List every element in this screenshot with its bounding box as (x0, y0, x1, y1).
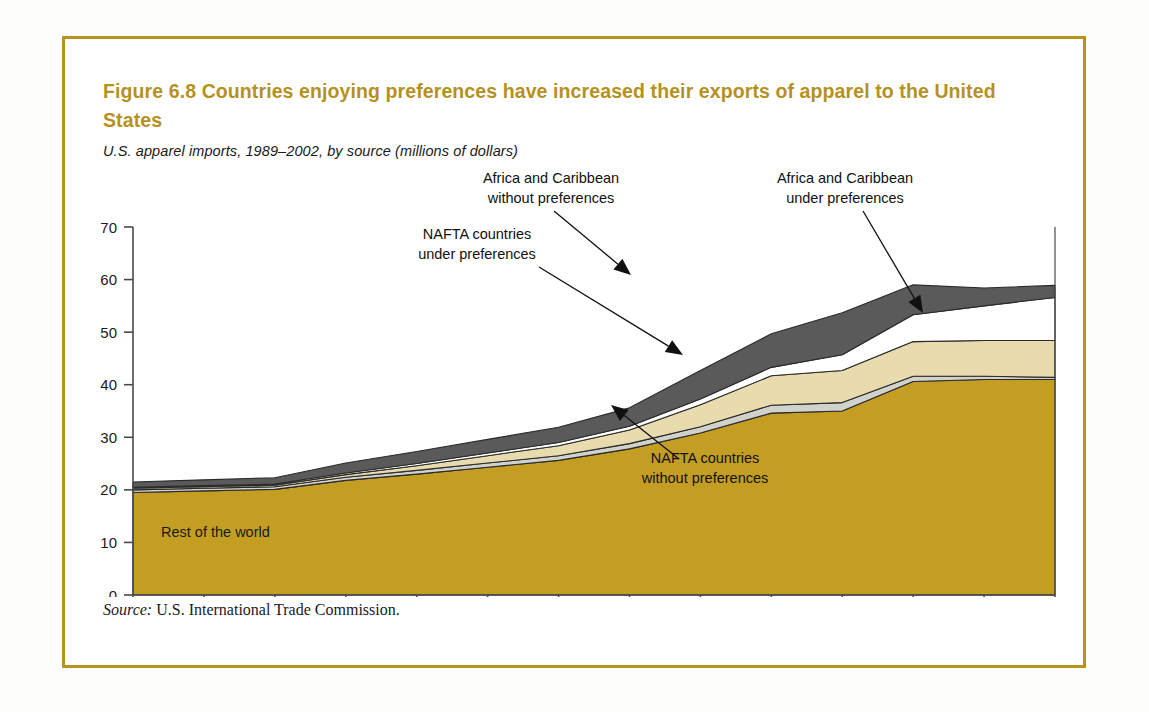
chart-svg: 010203040506070 198919901991199219931994… (65, 167, 1083, 597)
y-axis-tick-label: 10 (100, 534, 117, 551)
annotation-label-africa-caribbean-without-preferences: Africa and Caribbean (483, 170, 619, 186)
annotation-leader-nafta-countries-under-preferences (539, 267, 668, 346)
source-text: U.S. International Trade Commission. (152, 601, 400, 618)
annotation-label2-nafta-countries-without-preferences: without preferences (641, 470, 769, 486)
y-axis-tick-label: 0 (109, 587, 117, 598)
annotation-arrowhead-nafta-countries-under-preferences (665, 340, 683, 355)
y-axis-tick-label: 40 (100, 376, 117, 393)
figure-subtitle: U.S. apparel imports, 1989–2002, by sour… (103, 143, 1033, 159)
series-label-rest-of-the-world: Rest of the world (161, 524, 270, 540)
annotation-label2-africa-caribbean-without-preferences: without preferences (487, 190, 615, 206)
figure-frame: Figure 6.8 Countries enjoying preference… (62, 36, 1086, 668)
page-title: Figure 6.8 Countries enjoying preference… (103, 77, 1033, 135)
stacked-area-chart: 010203040506070 198919901991199219931994… (65, 167, 1083, 597)
annotation-leader-africa-caribbean-under-preferences (863, 211, 914, 298)
y-axis-tick-label: 50 (100, 324, 117, 341)
series-inline-labels: Rest of the world (161, 524, 270, 540)
y-axis-tick-label: 70 (100, 219, 117, 236)
y-axis-tick-labels: 010203040506070 (100, 219, 117, 598)
figure-page: Figure 6.8 Countries enjoying preference… (0, 0, 1149, 712)
annotation-label-nafta-countries-under-preferences: NAFTA countries (423, 226, 532, 242)
y-axis-tick-label: 20 (100, 481, 117, 498)
chart-areas (133, 285, 1055, 595)
annotation-label2-nafta-countries-under-preferences: under preferences (418, 246, 536, 262)
y-axis-tick-label: 30 (100, 429, 117, 446)
annotation-label2-africa-caribbean-under-preferences: under preferences (786, 190, 904, 206)
annotation-arrowhead-africa-caribbean-without-preferences (613, 259, 631, 275)
annotation-leader-africa-caribbean-without-preferences (554, 211, 618, 264)
annotation-label-nafta-countries-without-preferences: NAFTA countries (651, 450, 760, 466)
source-note: Source: U.S. International Trade Commiss… (103, 601, 400, 619)
annotation-label-africa-caribbean-under-preferences: Africa and Caribbean (777, 170, 913, 186)
source-label: Source: (103, 601, 152, 618)
y-axis-tick-label: 60 (100, 271, 117, 288)
